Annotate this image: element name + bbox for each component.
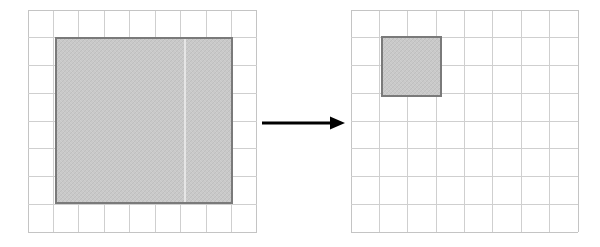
arrow-head — [330, 117, 345, 130]
source-region — [56, 38, 232, 203]
region-fill — [382, 37, 441, 96]
figure-root — [0, 0, 600, 247]
transform-arrow-icon — [262, 117, 345, 130]
figure-canvas — [0, 0, 600, 247]
target-region — [382, 37, 441, 96]
region-fill — [56, 38, 232, 203]
